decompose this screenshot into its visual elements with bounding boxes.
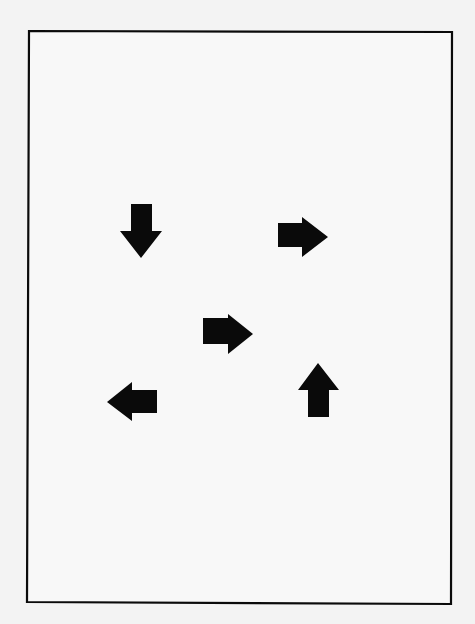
arrow-diagram: [0, 0, 475, 624]
frame-border: [27, 31, 452, 604]
